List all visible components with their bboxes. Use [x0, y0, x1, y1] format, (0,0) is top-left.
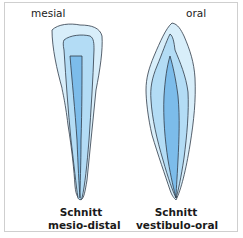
- tooth-diagram: [0, 0, 243, 238]
- caption-vestibulo-oral: Schnitt vestibulo-oral: [136, 206, 216, 232]
- caption-mesio-distal: Schnitt mesio-distal: [48, 206, 114, 232]
- caption-vestibulo-oral-line2: vestibulo-oral: [136, 219, 216, 232]
- caption-mesio-distal-line2: mesio-distal: [48, 219, 114, 232]
- tooth-vestibulo-oral: [146, 23, 195, 200]
- caption-mesio-distal-line1: Schnitt: [48, 206, 114, 219]
- tooth-mesio-distal: [52, 24, 102, 200]
- caption-vestibulo-oral-line1: Schnitt: [136, 206, 216, 219]
